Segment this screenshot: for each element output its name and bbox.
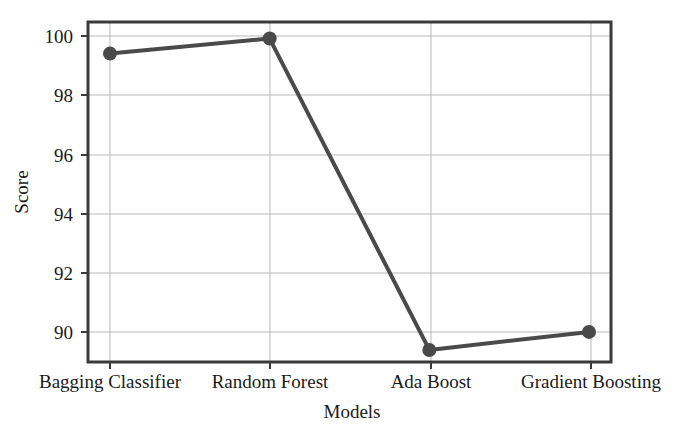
ytick-label-100: 100 bbox=[45, 26, 74, 47]
y-axis-title: Score bbox=[11, 170, 32, 213]
data-point-marker bbox=[422, 343, 436, 357]
ytick-label-90: 90 bbox=[54, 322, 73, 343]
ytick-label-98: 98 bbox=[54, 85, 73, 106]
data-point-marker bbox=[582, 325, 596, 339]
data-point-marker bbox=[103, 47, 117, 61]
xtick-label-ada-boost: Ada Boost bbox=[391, 371, 472, 392]
ytick-label-92: 92 bbox=[54, 263, 73, 284]
xtick-label-bagging-classifier: Bagging Classifier bbox=[39, 371, 182, 392]
x-axis-title: Models bbox=[324, 401, 381, 422]
data-point-marker bbox=[263, 32, 277, 46]
xtick-label-gradient-boosting: Gradient Boosting bbox=[521, 371, 661, 392]
chart-figure: 90 92 94 96 98 100 Bagging Classifier Ra… bbox=[0, 0, 700, 443]
line-chart: 90 92 94 96 98 100 Bagging Classifier Ra… bbox=[0, 0, 700, 443]
ytick-label-96: 96 bbox=[54, 145, 73, 166]
xtick-label-random-forest: Random Forest bbox=[212, 371, 329, 392]
ytick-label-94: 94 bbox=[54, 204, 74, 225]
